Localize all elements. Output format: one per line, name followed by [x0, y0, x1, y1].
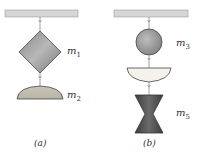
label-m1: m1 — [67, 46, 81, 59]
ceiling-a — [5, 10, 78, 17]
label-m3: m3 — [176, 38, 190, 51]
mass-m3-circle — [136, 29, 162, 55]
caption-b: (b) — [143, 138, 156, 148]
caption-a: (a) — [34, 138, 46, 148]
label-m2: m2 — [67, 90, 81, 103]
ceiling-b — [114, 10, 188, 17]
label-m5: m5 — [176, 108, 190, 121]
mass-m4-bowl — [127, 68, 171, 82]
mass-m1-diamond — [19, 31, 61, 73]
diagram-canvas — [0, 0, 199, 158]
mass-m2-dome — [17, 86, 63, 99]
mass-m5-hourglass — [135, 95, 163, 133]
